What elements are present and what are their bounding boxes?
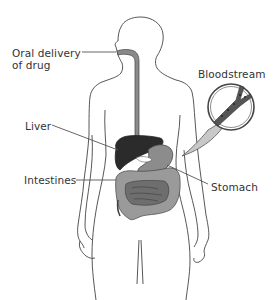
- leader-lines: [52, 52, 208, 184]
- stomach-label: Stomach: [211, 181, 258, 193]
- intestines-organ: [116, 168, 181, 220]
- intestines-label: Intestines: [24, 174, 76, 186]
- liver-label: Liver: [25, 120, 51, 132]
- bloodstream-label: Bloodstream: [198, 68, 266, 80]
- esophagus: [117, 50, 139, 141]
- oral-delivery-label: Oral delivery of drug: [12, 47, 81, 71]
- drug-delivery-diagram: [0, 0, 276, 300]
